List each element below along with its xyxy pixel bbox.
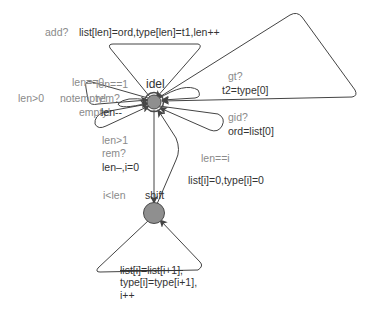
len-eq-i-update-label: list[i]=0,type[i]=0	[188, 174, 264, 186]
add-sync-label: add?	[45, 26, 68, 38]
i-lt-len-guard-label: i<len	[103, 189, 125, 201]
rem2-sync-label: rem?	[102, 147, 126, 159]
location-idel[interactable]	[145, 93, 164, 112]
gid-update-label: ord=list[0]	[228, 125, 274, 137]
location-shift[interactable]	[144, 203, 165, 224]
rem-sync-label: rem?	[96, 92, 120, 104]
rem2-update-label: len–,i=0	[102, 161, 139, 173]
gt-update-label: t2=type[0]	[222, 84, 268, 96]
shift-update-line1: list[i]=list[i+1],	[120, 264, 183, 276]
len-gt0-guard-label: len>0	[18, 92, 44, 104]
shift-update-line2: type[i]=type[i+1],	[120, 276, 197, 288]
gid-sync-label: gid?	[228, 111, 248, 123]
gt-sync-label: gt?	[228, 70, 243, 82]
edge-add-loop[interactable]	[109, 44, 200, 102]
len-gt1-guard-label: len>1	[102, 134, 128, 146]
len-eq-i-guard-label: len==i	[201, 152, 230, 164]
automaton-canvas	[0, 0, 372, 313]
len-eq1-guard-label: len==1	[96, 78, 128, 90]
add-update-label: list[len]=ord,type[len]=t1,len++	[79, 26, 220, 38]
len-dec-label: len--	[101, 106, 122, 118]
idel-name-label: idel	[146, 78, 165, 90]
shift-update-line3: i++	[120, 289, 135, 301]
shift-name-label: shift	[145, 189, 164, 201]
